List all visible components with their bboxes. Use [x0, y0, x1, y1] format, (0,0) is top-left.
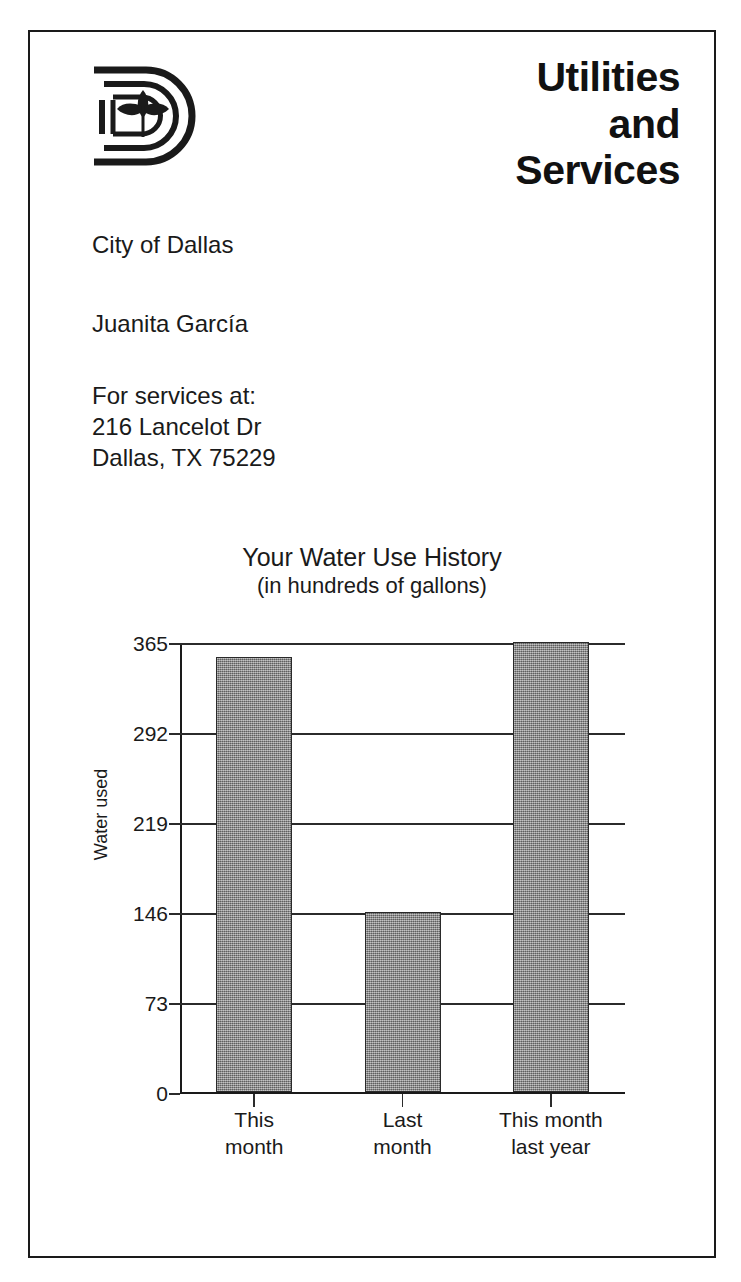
y-axis-tick-label: 73 [145, 992, 168, 1016]
y-axis-line [180, 644, 182, 1094]
y-axis-tick-label: 0 [156, 1082, 168, 1106]
department-title-line-1: Utilities [350, 54, 680, 101]
chart-title-group: Your Water Use History (in hundreds of g… [30, 532, 714, 600]
service-address-street: 216 Lancelot Dr [92, 412, 522, 443]
x-axis-category-label: Thismonth [225, 1106, 283, 1161]
city-name: City of Dallas [92, 230, 522, 261]
service-address-citystatezip: Dallas, TX 75229 [92, 443, 522, 474]
y-axis-tick-mark [169, 733, 180, 735]
y-axis-tick-mark [169, 1003, 180, 1005]
y-axis-tick-mark [169, 913, 180, 915]
x-axis-category-label: Lastmonth [373, 1106, 431, 1161]
department-title-line-2: and [350, 101, 680, 148]
bar-this-month [216, 657, 292, 1092]
y-axis-tick-labels: 073146219292365 [100, 644, 168, 1094]
department-title-line-3: Services [350, 147, 680, 194]
y-axis-tick-label: 365 [133, 632, 168, 656]
spacer [92, 261, 522, 309]
bar-this-month-last-year [513, 642, 589, 1092]
city-of-dallas-d-logo [88, 60, 202, 178]
chart-subtitle: (in hundreds of gallons) [30, 572, 714, 600]
bill-document: Utilities and Services City of Dallas Ju… [28, 30, 716, 1258]
y-axis-tick-label: 219 [133, 812, 168, 836]
y-axis-tick-mark [169, 643, 180, 645]
spacer [92, 339, 522, 381]
water-use-chart: Your Water Use History (in hundreds of g… [30, 532, 714, 1232]
x-axis-category-labels: ThismonthLastmonthThis monthlast year [180, 1106, 625, 1186]
customer-name: Juanita García [92, 309, 522, 340]
bill-header: Utilities and Services [30, 32, 714, 232]
service-address-label: For services at: [92, 381, 522, 412]
y-axis-tick-mark [169, 1093, 180, 1095]
address-block: City of Dallas Juanita García For servic… [92, 230, 522, 474]
y-axis-tick-mark [169, 823, 180, 825]
y-axis-tick-label: 292 [133, 722, 168, 746]
department-title: Utilities and Services [350, 54, 680, 194]
plot-area [180, 644, 625, 1094]
x-axis-category-label: This monthlast year [499, 1106, 603, 1161]
bar-last-month [365, 912, 441, 1092]
plot-wrap: Water used 073146219292365 ThismonthLast… [30, 644, 718, 1204]
y-axis-tick-label: 146 [133, 902, 168, 926]
chart-title: Your Water Use History [30, 542, 714, 572]
